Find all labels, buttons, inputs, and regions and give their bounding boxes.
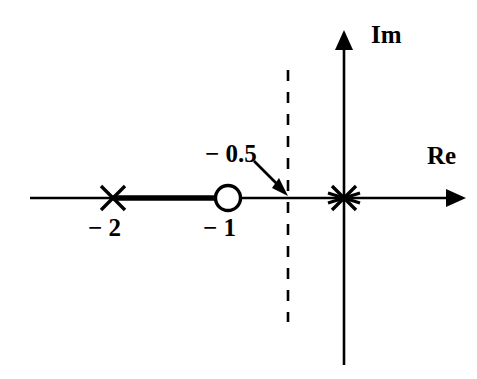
- callout-arrow-icon: [254, 161, 288, 196]
- right-arrow-icon: [446, 189, 466, 207]
- imaginary-axis-label: Im: [371, 22, 402, 47]
- zero-marker-minus-1: [216, 186, 241, 211]
- pole-zero-figure: Im Re − 2 − 1 − 0.5: [0, 0, 477, 379]
- complex-plane-plot: [0, 0, 477, 379]
- tick-label-minus-2: − 2: [88, 215, 121, 240]
- real-axis-label: Re: [427, 143, 456, 168]
- callout-label-minus-0-5: − 0.5: [205, 141, 257, 166]
- up-arrow-icon: [335, 30, 353, 50]
- tick-label-minus-1: − 1: [203, 215, 236, 240]
